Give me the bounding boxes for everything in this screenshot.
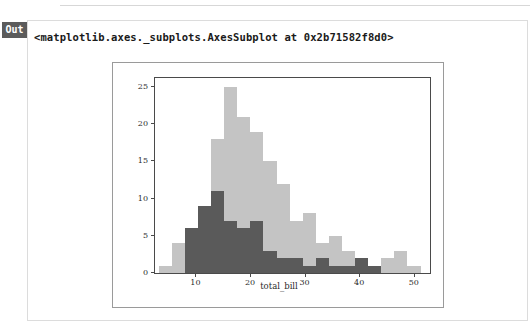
y-axis-ticks: 0510152025: [113, 77, 154, 274]
histogram-bar: [185, 228, 198, 273]
y-tick-label: 20: [138, 119, 148, 128]
histogram-bar: [277, 258, 290, 273]
y-tick-label: 10: [138, 193, 148, 202]
histogram-bar: [224, 221, 237, 273]
histogram-bar: [303, 266, 316, 273]
notebook-output-page: Out <matplotlib.axes._subplots.AxesSubpl…: [0, 0, 530, 324]
out-prompt-badge: Out: [2, 22, 27, 38]
histogram-bar: [394, 251, 407, 273]
histogram-bar: [172, 243, 185, 273]
x-tick-mark: [305, 274, 306, 277]
histogram-bar: [250, 221, 263, 273]
histogram-bar: [316, 258, 329, 273]
histogram-bar: [263, 251, 276, 273]
histogram-bar: [237, 228, 250, 273]
cell-separator-rule: [60, 0, 530, 6]
histogram-bar: [329, 266, 342, 273]
x-tick-mark: [359, 274, 360, 277]
histogram-bar: [303, 213, 316, 273]
histogram-bar: [368, 266, 381, 273]
y-tick-label: 0: [143, 268, 148, 277]
histogram-bar: [198, 206, 211, 273]
y-tick-label: 5: [143, 230, 148, 239]
histogram-bar: [355, 258, 368, 273]
plot-axes: [154, 77, 431, 274]
x-tick-mark: [195, 274, 196, 277]
y-tick-label: 25: [138, 81, 148, 90]
histogram-bar: [159, 266, 172, 273]
x-tick-mark: [250, 274, 251, 277]
x-tick-mark: [414, 274, 415, 277]
histogram-bar: [407, 266, 420, 273]
x-axis-label: total_bill: [113, 281, 445, 291]
histogram-bar: [381, 258, 394, 273]
histogram-bar: [211, 191, 224, 273]
histogram-bar: [342, 266, 355, 273]
histogram-bars: [155, 78, 430, 273]
matplotlib-figure: 0510152025 1020304050 total_bill: [112, 62, 444, 308]
output-repr-text: <matplotlib.axes._subplots.AxesSubplot a…: [34, 31, 394, 43]
histogram-bar: [290, 258, 303, 273]
y-tick-label: 15: [138, 156, 148, 165]
